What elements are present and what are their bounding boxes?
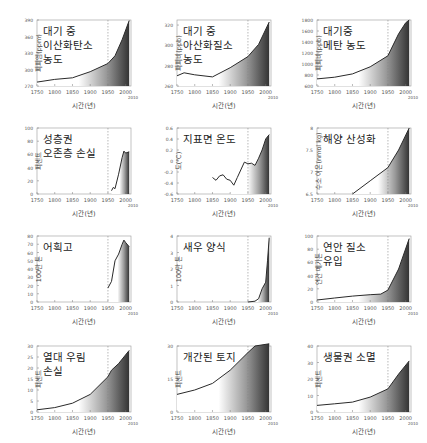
y-tick: 15 <box>13 377 33 382</box>
x-tick: 1900 <box>364 89 377 95</box>
y-tick: 30 <box>13 275 33 280</box>
y-tick: 0 <box>153 159 173 164</box>
y-tick: 1800 <box>293 18 313 23</box>
plot: 대기 중 아산화질소 농도 피피비(ppb) 시간(년)260280300320… <box>177 20 271 86</box>
plot: 열대 우림 손실 퍼센트 시간(년)0510152025301750180018… <box>37 346 131 412</box>
y-tick: 100 <box>293 234 313 239</box>
y-tick: 8 <box>293 126 313 131</box>
y-tick: 40 <box>13 165 33 170</box>
x-tick: 1800 <box>188 197 201 203</box>
y-tick: 10 <box>13 388 33 393</box>
y-tick: 0.2 <box>153 148 173 153</box>
y-tick: 30 <box>293 360 313 365</box>
x-tick-2010: 2010 <box>128 95 138 100</box>
x-tick: 1750 <box>311 197 324 203</box>
y-tick: 60 <box>293 260 313 265</box>
x-tick-2010: 2010 <box>408 203 418 208</box>
x-tick: 1900 <box>84 415 97 421</box>
chart-panel-nitrogen: 연안 질소 유입 연간 메가톤 시간(년)0204060801001750180… <box>280 216 420 324</box>
x-tick: 1750 <box>311 415 324 421</box>
x-tick: 1900 <box>224 415 237 421</box>
y-axis-label: 피피비(ppb) <box>145 20 211 86</box>
x-tick: 1950 <box>382 89 395 95</box>
x-tick: 1850 <box>346 197 359 203</box>
x-tick: 1850 <box>66 415 79 421</box>
y-tick: 1200 <box>293 51 313 56</box>
y-tick: 6.5 <box>293 192 313 197</box>
y-tick: 0.6 <box>153 126 173 131</box>
x-tick-2010: 2010 <box>128 421 138 426</box>
x-tick: 1950 <box>242 89 255 95</box>
y-tick: -0.6 <box>153 192 173 197</box>
x-tick: 1950 <box>102 89 115 95</box>
y-tick: 7 <box>293 170 313 175</box>
chart-panel-fish: 어획고 100만 톤 시간(년)010203040506070801750180… <box>0 216 140 324</box>
y-tick: 600 <box>293 84 313 89</box>
x-tick: 1900 <box>84 89 97 95</box>
y-tick: 20 <box>13 283 33 288</box>
x-tick-2010: 2010 <box>128 311 138 316</box>
x-tick: 1850 <box>66 197 79 203</box>
y-tick: 300 <box>153 43 173 48</box>
x-axis-label: 시간(년) <box>317 316 411 326</box>
y-tick: 280 <box>153 63 173 68</box>
y-tick: 20 <box>13 178 33 183</box>
plot: 연안 질소 유입 연간 메가톤 시간(년)0204060801001750180… <box>317 236 411 302</box>
x-tick: 1850 <box>66 89 79 95</box>
x-tick: 1750 <box>31 89 44 95</box>
x-tick: 1750 <box>171 197 184 203</box>
x-tick: 1800 <box>48 305 61 311</box>
x-tick: 1900 <box>224 305 237 311</box>
y-tick: 40 <box>13 267 33 272</box>
chart-panel-co2: 대기 중 이산화탄소 농도 피피엠(ppm) 시간(년)270300330360… <box>0 0 140 108</box>
x-tick-2010: 2010 <box>408 95 418 100</box>
chart-panel-land: 개간된 토지 퍼센트 시간(년)015301750180018501900195… <box>140 326 280 434</box>
y-tick: 330 <box>13 51 33 56</box>
x-tick: 1850 <box>346 89 359 95</box>
x-tick: 1800 <box>48 89 61 95</box>
y-tick: 15 <box>153 377 173 382</box>
y-tick: 10 <box>13 291 33 296</box>
y-tick: 10 <box>293 393 313 398</box>
x-tick: 1800 <box>188 415 201 421</box>
y-tick: 360 <box>13 34 33 39</box>
x-tick: 1850 <box>346 415 359 421</box>
chart-panel-ocean: 해양 산성화 수소 이온(nmol kg) 시간(년)6.577.5817501… <box>280 108 420 216</box>
y-tick: 70 <box>13 242 33 247</box>
x-tick: 1850 <box>66 305 79 311</box>
x-tick: 1750 <box>171 415 184 421</box>
plot: 어획고 100만 톤 시간(년)010203040506070801750180… <box>37 236 131 302</box>
x-tick: 1800 <box>188 305 201 311</box>
x-tick: 1950 <box>102 305 115 311</box>
chart-panel-biosphere: 생물권 소멸 퍼센트 시간(년)010203040175018001850190… <box>280 326 420 434</box>
y-tick: 0.4 <box>153 137 173 142</box>
x-tick-2010: 2010 <box>268 421 278 426</box>
x-tick: 1950 <box>382 197 395 203</box>
y-tick: 60 <box>13 250 33 255</box>
y-tick: 5 <box>13 399 33 404</box>
x-tick: 1750 <box>31 305 44 311</box>
y-tick: 0 <box>153 410 173 415</box>
y-tick: 320 <box>153 23 173 28</box>
x-tick: 1800 <box>328 89 341 95</box>
y-tick: 1 <box>153 283 173 288</box>
x-tick: 1900 <box>84 305 97 311</box>
y-tick: 0 <box>13 300 33 305</box>
y-tick: 0 <box>13 192 33 197</box>
y-tick: 20 <box>13 366 33 371</box>
x-tick-2010: 2010 <box>268 203 278 208</box>
x-tick: 1850 <box>206 89 219 95</box>
x-tick: 1850 <box>206 415 219 421</box>
x-axis-label: 시간(년) <box>177 316 271 326</box>
y-tick: 0 <box>293 410 313 415</box>
x-tick: 1900 <box>224 197 237 203</box>
y-tick: 20 <box>293 377 313 382</box>
chart-panel-ch4: 대기중 메탄 농도 피피비(ppb) 시간(년)6008001000120014… <box>280 0 420 108</box>
y-tick: 30 <box>153 344 173 349</box>
x-tick: 1900 <box>84 197 97 203</box>
y-tick: 100 <box>13 126 33 131</box>
x-tick: 1750 <box>171 89 184 95</box>
x-axis-label: 시간(년) <box>177 426 271 436</box>
x-tick: 1800 <box>328 197 341 203</box>
x-tick: 1850 <box>346 305 359 311</box>
